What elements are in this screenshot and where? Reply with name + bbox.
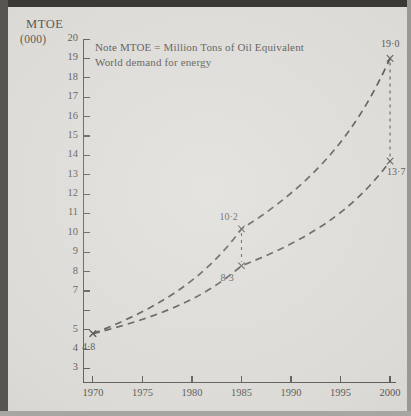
series-line-upper-projection: [93, 58, 390, 333]
scan-edge-bottom: [0, 411, 411, 416]
scan-edge-top: [0, 0, 411, 7]
marker-layer: [90, 55, 394, 337]
scan-page: MTOE (000) Note MTOE = Million Tons of O…: [0, 0, 411, 416]
connector-layer: [241, 62, 390, 261]
series-layer: [93, 58, 390, 333]
data-label-origin-1970: 4·8: [82, 341, 95, 352]
marker-lower-projection-2000: [387, 158, 393, 164]
scan-edge-right: [407, 0, 411, 416]
chart-figure: MTOE (000) Note MTOE = Million Tons of O…: [8, 7, 407, 411]
data-label-lower-2000: 13·7: [387, 166, 405, 177]
data-label-upper-1985: 10·2: [219, 211, 237, 222]
data-label-lower-1985: 8·3: [220, 272, 233, 283]
scan-edge-left: [0, 0, 8, 416]
marker-upper-projection-2000: [387, 55, 393, 61]
data-label-upper-2000: 19·0: [381, 38, 399, 49]
marker-lower-projection-1985: [238, 263, 244, 269]
plot-area: [8, 7, 407, 411]
marker-upper-projection-1985: [238, 226, 244, 232]
